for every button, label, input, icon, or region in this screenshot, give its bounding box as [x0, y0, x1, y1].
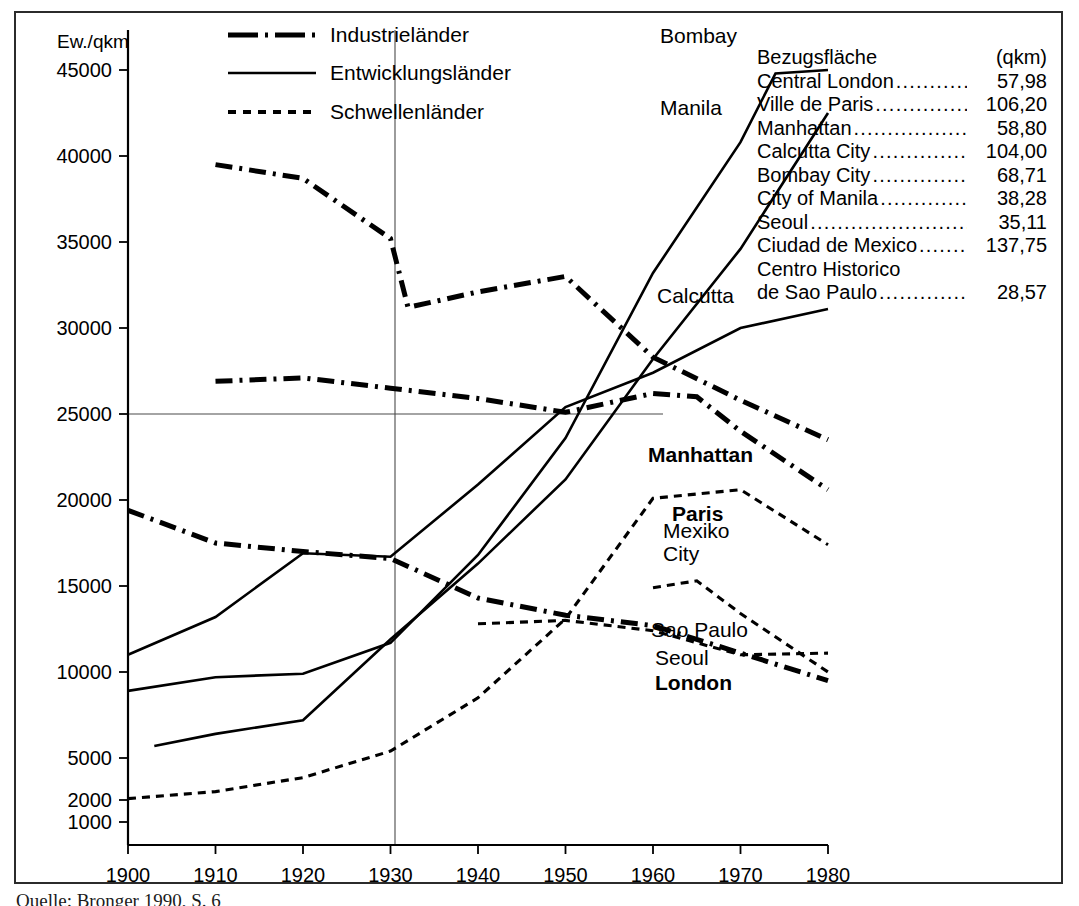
y-tick-label-20000: 20000: [56, 489, 112, 511]
series-label-bombay: Bombay: [660, 24, 738, 47]
y-tick-label-15000: 15000: [56, 575, 112, 597]
table-title: Bezugsfläche: [757, 46, 877, 70]
table-unit-header: (qkm): [969, 46, 1047, 70]
x-tick-label-1900: 1900: [106, 864, 151, 886]
legend-label-schwellenlaender: Schwellenländer: [330, 100, 484, 123]
table-cell-value: 58,80: [969, 117, 1047, 141]
reference-lines: [128, 30, 663, 845]
table-row: Bombay City.............................…: [757, 164, 1047, 188]
series-line-calcutta: [128, 309, 828, 655]
dot-leader: ........................................: [872, 140, 967, 164]
series-label-calcutta: Calcutta: [657, 284, 734, 307]
table-cell-name: Ciudad de Mexico: [757, 234, 917, 258]
legend-label-entwicklungslaender: Entwicklungsländer: [330, 61, 511, 84]
dot-leader: ........................................: [854, 117, 967, 141]
series-line-paris: [216, 378, 829, 490]
table-cell-name: City of Manila: [757, 187, 878, 211]
y-tick-label-45000: 45000: [56, 59, 112, 81]
x-tick-label-1960: 1960: [631, 864, 676, 886]
table-cell-name: Bombay City: [757, 164, 870, 188]
table-cell-name: Central London: [757, 70, 894, 94]
series-label-london: London: [655, 671, 732, 694]
legend: Industrieländer Entwicklungsländer Schwe…: [228, 23, 511, 123]
dot-leader: ........................................: [875, 93, 967, 117]
dot-leader: ........................................: [880, 187, 967, 211]
legend-label-industrielaender: Industrieländer: [330, 23, 469, 46]
y-tick-labels: 1000200050001000015000200002500030000350…: [56, 59, 112, 833]
y-tick-label-5000: 5000: [68, 747, 113, 769]
series-label-mexiko: Mexiko: [663, 519, 730, 542]
table-cell-value: 35,11: [969, 211, 1047, 235]
x-tick-label-1930: 1930: [368, 864, 413, 886]
dot-leader: ........................................: [919, 234, 967, 258]
dot-leader: ........................................: [872, 164, 967, 188]
table-row: Seoul...................................…: [757, 211, 1047, 235]
series-label-sao-paulo: Sao Paulo: [651, 618, 748, 641]
table-row: Calcutta City...........................…: [757, 140, 1047, 164]
table-cell-name: Calcutta City: [757, 140, 870, 164]
table-cell-value: 57,98: [969, 70, 1047, 94]
series-labels: BombayManilaCalcuttaManhattanParisMexiko…: [648, 24, 753, 694]
dot-leader: ........................................: [879, 281, 967, 305]
y-tick-label-40000: 40000: [56, 145, 112, 167]
table-cell-value: 106,20: [969, 93, 1047, 117]
x-tick-label-1940: 1940: [456, 864, 501, 886]
table-row: Central London..........................…: [757, 70, 1047, 94]
y-tick-label-25000: 25000: [56, 403, 112, 425]
table-cell-name: Ville de Paris: [757, 93, 873, 117]
table-row: Ciudad de Mexico........................…: [757, 234, 1047, 258]
table-row: City of Manila..........................…: [757, 187, 1047, 211]
dot-leader: ........................................: [810, 211, 967, 235]
figure-root: 1000200050001000015000200002500030000350…: [0, 0, 1079, 906]
y-axis-title: Ew./qkm: [57, 31, 129, 52]
series-label-manhattan: Manhattan: [648, 443, 753, 466]
x-tick-labels: 190019101920193019401950196019701980: [106, 864, 851, 886]
y-tick-label-30000: 30000: [56, 317, 112, 339]
table-cell-value: 104,00: [969, 140, 1047, 164]
table-row: Manhattan...............................…: [757, 117, 1047, 141]
reference-area-table: Bezugsfläche (qkm) Central London.......…: [757, 46, 1047, 305]
x-tick-label-1980: 1980: [806, 864, 851, 886]
table-cell-name: de Sao Paulo: [757, 281, 877, 305]
table-cell-name: Manhattan: [757, 117, 852, 141]
table-header-row: Bezugsfläche (qkm): [757, 46, 1047, 70]
table-cell-name: Seoul: [757, 211, 808, 235]
x-tick-marks: [128, 845, 828, 854]
y-tick-label-1000: 1000: [68, 811, 113, 833]
series-label-city: City: [663, 542, 700, 565]
table-cell-value: 68,71: [969, 164, 1047, 188]
series-label-manila: Manila: [660, 96, 722, 119]
table-cell-value: 38,28: [969, 187, 1047, 211]
y-tick-label-10000: 10000: [56, 661, 112, 683]
table-row: Ville de Paris..........................…: [757, 93, 1047, 117]
x-tick-label-1970: 1970: [718, 864, 763, 886]
y-tick-label-35000: 35000: [56, 231, 112, 253]
source-caption: Quelle: Bronger 1990, S. 6: [16, 890, 221, 906]
x-tick-label-1920: 1920: [281, 864, 326, 886]
y-tick-marks: [119, 70, 128, 822]
table-cell-value: 137,75: [969, 234, 1047, 258]
table-row: Centro Historico........................…: [757, 258, 1047, 282]
axes: [128, 30, 828, 845]
table-cell-name: Centro Historico: [757, 258, 900, 282]
x-tick-label-1950: 1950: [543, 864, 588, 886]
y-tick-label-2000: 2000: [68, 789, 113, 811]
series-line-manhattan: [216, 165, 829, 440]
table-row: de Sao Paulo............................…: [757, 281, 1047, 305]
x-tick-label-1910: 1910: [193, 864, 238, 886]
dot-leader: ........................................: [896, 70, 967, 94]
series-label-seoul: Seoul: [655, 646, 709, 669]
table-cell-value: 28,57: [969, 281, 1047, 305]
